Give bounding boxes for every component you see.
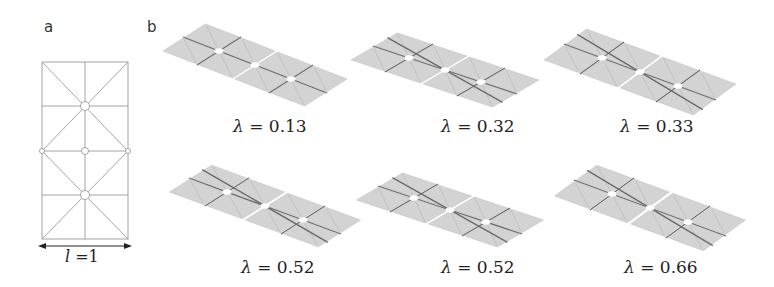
structure-caption: λ = 0.13 [233,116,307,136]
hole [482,219,491,225]
lambda-value: = 0.13 [244,116,307,136]
lambda-value: = 0.33 [631,116,694,136]
structure-1 [163,24,347,106]
hole [251,62,260,68]
hole [477,79,486,85]
hole [215,48,224,54]
hole [299,217,308,223]
lambda-symbol: λ [441,257,452,277]
structure-6 [555,165,746,250]
hole [410,195,419,201]
structure-2 [351,33,539,107]
hole [446,207,455,213]
hole [674,83,683,89]
structure-5 [356,173,543,247]
hole [684,219,693,225]
structure-caption: λ = 0.32 [441,116,515,136]
hole [646,205,655,211]
panel-a-caption: l =1 [65,247,99,266]
pattern-hole [81,191,90,200]
structure-4 [169,165,360,247]
pattern-hole [81,102,90,111]
hole [636,69,645,75]
lambda-symbol: λ [620,116,631,136]
lambda-value: = 0.52 [252,257,315,277]
hole [287,76,296,82]
figure-canvas [0,0,774,287]
hole [441,67,450,73]
lambda-symbol: λ [233,116,244,136]
structure-3 [544,29,736,115]
lambda-symbol: λ [241,257,252,277]
pattern-hole [82,148,89,155]
length-value: =1 [70,247,99,266]
deformed-structures [163,24,746,251]
crease-pattern [40,62,131,239]
structure-caption: λ = 0.33 [620,116,694,136]
hole [223,189,232,195]
structure-caption: λ = 0.52 [241,257,315,277]
lambda-value: = 0.32 [452,116,515,136]
hole [598,55,607,61]
structure-caption: λ = 0.66 [624,257,698,277]
lambda-value: = 0.52 [452,257,515,277]
lambda-symbol: λ [441,116,452,136]
structure-caption: λ = 0.52 [441,257,515,277]
lambda-symbol: λ [624,257,635,277]
hole [261,203,270,209]
pattern-hole [126,149,131,154]
hole [405,55,414,61]
lambda-value: = 0.66 [635,257,698,277]
pattern-hole [40,149,45,154]
hole [608,191,617,197]
